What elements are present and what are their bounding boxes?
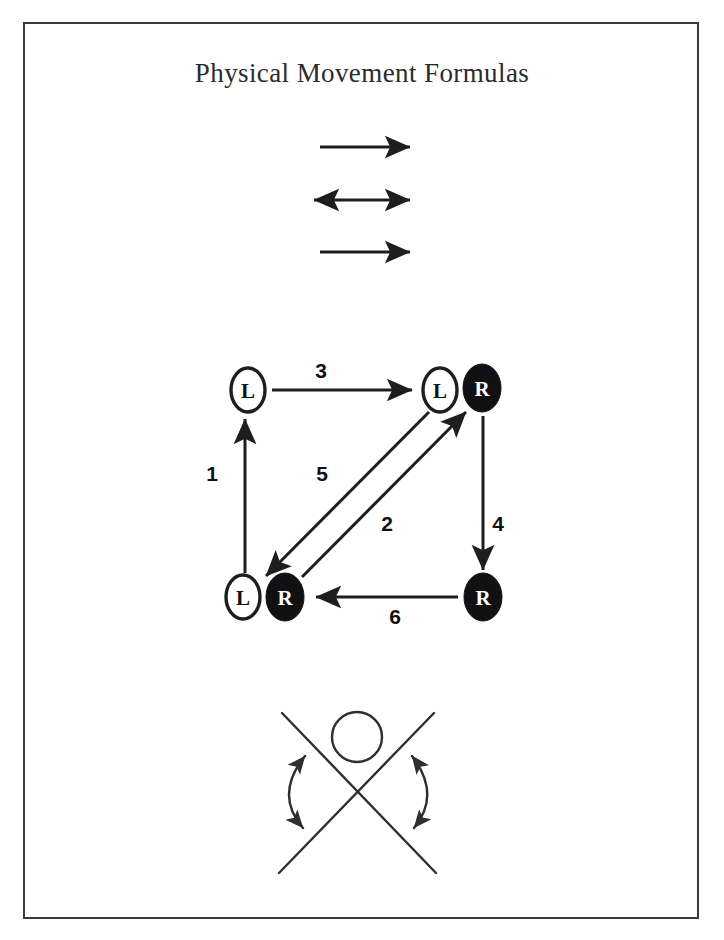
curved-arrow-left-icon xyxy=(289,756,305,828)
pivot-circle-icon xyxy=(332,712,382,762)
curved-arrow-right-icon xyxy=(412,756,427,828)
crossing-legs-rotation-figure xyxy=(0,0,724,940)
cross-line-up-icon xyxy=(279,713,434,873)
cross-line-down-icon xyxy=(282,713,436,873)
page-root: Physical Movement Formulas xyxy=(0,0,724,940)
